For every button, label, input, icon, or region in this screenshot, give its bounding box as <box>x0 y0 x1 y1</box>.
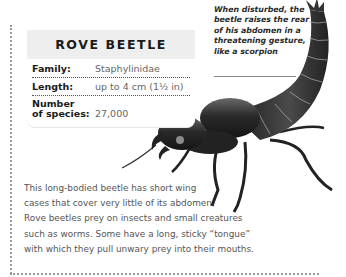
description-line: This long-bodied beetle has short wing <box>24 181 284 196</box>
description-line: cases that cover very little of its abdo… <box>24 196 284 211</box>
caption-line: like a scorpion <box>214 47 314 57</box>
description-line: Rove beetles prey on insects and small c… <box>24 211 284 226</box>
fact-label: Length: <box>32 81 73 92</box>
page-border-bottom <box>10 273 319 275</box>
fact-box-body: Family: Staphylinidae Length: up to 4 cm… <box>27 59 195 127</box>
fact-value: Staphylinidae <box>95 63 160 74</box>
fact-label: Family: <box>32 63 71 74</box>
caption-underline <box>214 76 296 77</box>
fact-box-title: ROVE BEETLE <box>27 37 195 52</box>
fact-row-family: Family: Staphylinidae <box>32 63 190 78</box>
illustration-caption: When disturbed, the beetle raises the re… <box>214 5 314 57</box>
caption-line: threatening gesture, <box>214 36 314 46</box>
fact-box: ROVE BEETLE Family: Staphylinidae Length… <box>27 30 195 127</box>
fact-row-species: Number of species: 27,000 <box>32 98 190 122</box>
description-line: with which they pull unwary prey into th… <box>24 242 284 257</box>
fact-label: of species: <box>32 108 90 119</box>
fact-value: up to 4 cm (1½ in) <box>95 81 184 92</box>
fact-row-length: Length: up to 4 cm (1½ in) <box>32 81 190 96</box>
fact-value: 27,000 <box>95 108 128 119</box>
caption-line: When disturbed, the <box>214 5 314 15</box>
caption-line: beetle raises the rear <box>214 15 314 25</box>
page-border-left <box>10 25 12 274</box>
description-line: such as worms. Some have a long, sticky … <box>24 227 284 242</box>
caption-line: of his abdomen in a <box>214 26 314 36</box>
description-paragraph: This long-bodied beetle has short wing c… <box>24 181 284 257</box>
